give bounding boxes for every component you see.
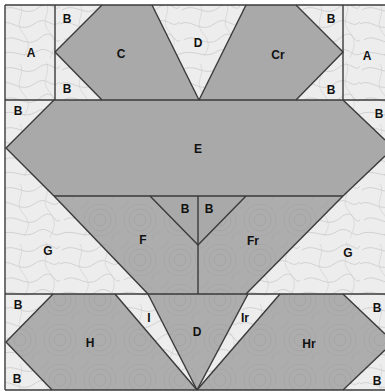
label-D-top: D xyxy=(194,36,203,50)
label-E: E xyxy=(194,142,202,156)
label-B-center-left: B xyxy=(181,202,190,216)
label-B-mid-left: B xyxy=(14,104,23,118)
label-H: H xyxy=(86,336,95,350)
label-B-mid-right: B xyxy=(375,107,384,121)
label-I: I xyxy=(147,311,150,325)
label-C: C xyxy=(117,47,126,61)
label-B-bl-lower: B xyxy=(13,372,22,386)
label-F: F xyxy=(139,233,146,247)
label-B-tr-lower: B xyxy=(327,83,336,97)
label-B-tl-upper: B xyxy=(63,12,72,26)
label-B-tr-upper: B xyxy=(327,12,336,26)
label-A-right: A xyxy=(363,49,372,63)
label-Ir: Ir xyxy=(241,311,249,325)
label-B-tl-lower: B xyxy=(63,82,72,96)
label-B-center-right: B xyxy=(205,202,214,216)
label-D-bottom: D xyxy=(193,325,202,339)
label-G-left: G xyxy=(43,244,52,258)
label-Hr: Hr xyxy=(302,337,316,351)
label-B-br-lower: B xyxy=(373,374,382,388)
label-Fr: Fr xyxy=(247,234,259,248)
label-G-right: G xyxy=(343,246,352,260)
label-B-bl-upper: B xyxy=(14,298,23,312)
label-B-br-upper: B xyxy=(373,301,382,315)
label-Cr: Cr xyxy=(271,48,285,62)
quilt-block-diagram: A B B C D Cr B B A B E B G F B B Fr G B … xyxy=(0,0,385,392)
label-A-left: A xyxy=(27,46,36,60)
